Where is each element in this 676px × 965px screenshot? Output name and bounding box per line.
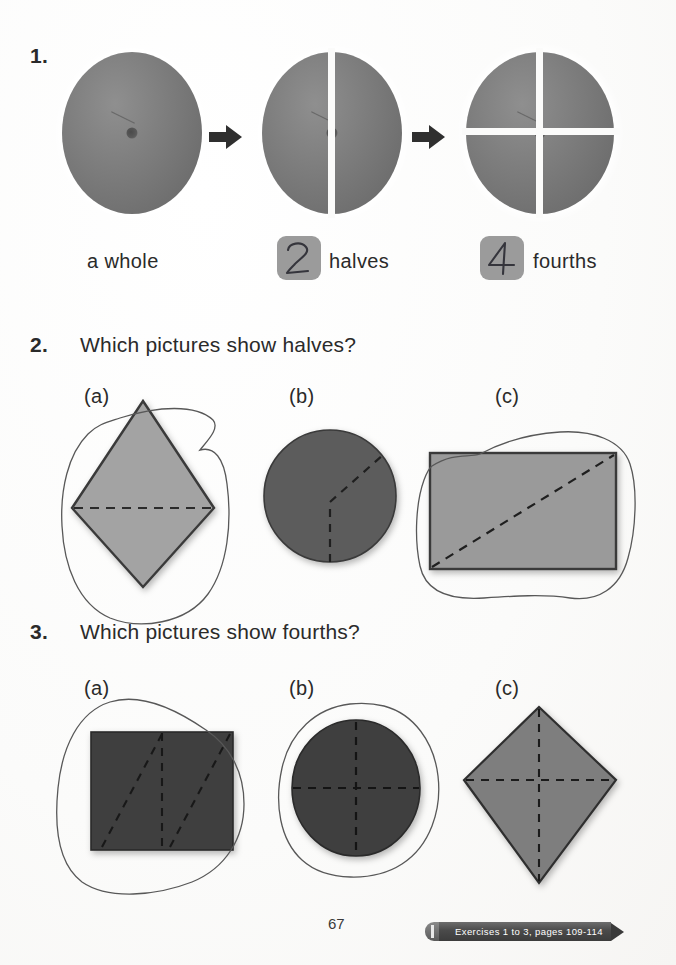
item-3-choice-c-shape[interactable]	[460, 704, 620, 886]
item-2-question: Which pictures show halves?	[80, 333, 356, 357]
worksheet-page: 1. a whole	[0, 0, 676, 965]
exercise-reference-label: Exercises 1 to 3, pages 109-114	[439, 922, 611, 941]
caption-halves: halves	[329, 250, 389, 273]
item-3-choice-b-label: (b)	[289, 677, 314, 700]
item-2-choice-b-shape[interactable]	[262, 428, 398, 564]
item-2-choice-a-shape[interactable]	[68, 398, 218, 590]
item-3-choice-b-shape[interactable]	[290, 718, 422, 858]
caption-a-whole: a whole	[87, 250, 159, 273]
item-1-number: 1.	[30, 44, 48, 68]
handwritten-digit-box-4	[480, 236, 524, 280]
item-2-choice-c-label: (c)	[495, 385, 519, 408]
cut-line-vertical	[328, 48, 335, 218]
exercise-reference-tag: Exercises 1 to 3, pages 109-114	[425, 922, 624, 941]
tag-pencil-tip-icon	[611, 923, 624, 941]
item-3-choice-a-label: (a)	[84, 677, 109, 700]
handwritten-digit-box-2	[277, 236, 321, 280]
caption-fourths: fourths	[533, 250, 597, 273]
arrow-right-icon-2	[412, 124, 446, 150]
tag-eraser-cap-icon	[425, 922, 439, 941]
orange-navel	[127, 128, 138, 139]
item-3-choice-a-shape[interactable]	[90, 731, 234, 851]
page-number: 67	[328, 915, 345, 932]
orange-stem-scar	[111, 111, 135, 123]
orange-image-whole	[62, 52, 202, 214]
item-2-choice-b-label: (b)	[289, 385, 314, 408]
arrow-right-icon-1	[209, 124, 243, 150]
item-3-number: 3.	[30, 620, 48, 644]
cut-line-horizontal	[462, 128, 620, 135]
item-2-choice-c-shape[interactable]	[428, 451, 618, 571]
item-2-number: 2.	[30, 333, 48, 357]
item-3-question: Which pictures show fourths?	[80, 620, 360, 644]
item-3-choice-c-label: (c)	[495, 677, 519, 700]
